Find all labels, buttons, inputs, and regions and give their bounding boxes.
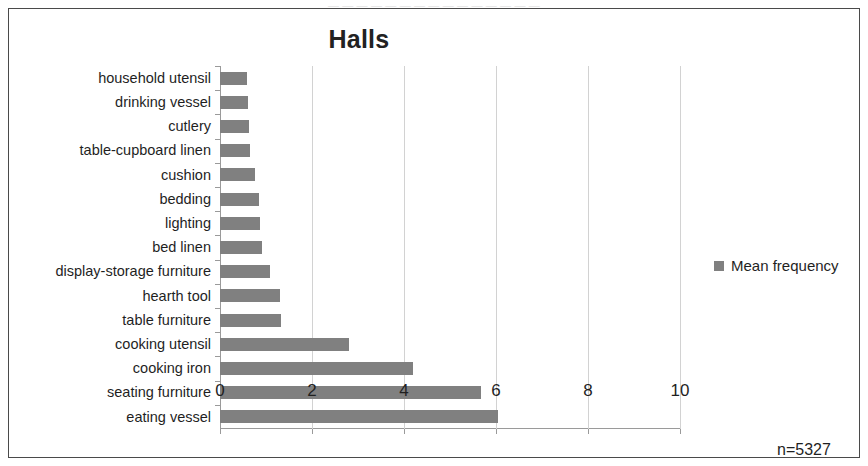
bar <box>220 289 280 302</box>
bar-row: bed linen <box>220 235 262 259</box>
category-label: hearth tool <box>142 289 211 304</box>
y-axis-tick <box>215 405 220 406</box>
bar-row: seating furniture <box>220 381 481 405</box>
bar <box>220 168 255 181</box>
legend-label-mean-frequency: Mean frequency <box>731 257 839 274</box>
chart-title: Halls <box>9 25 709 54</box>
x-axis-tick <box>220 429 221 434</box>
gridline <box>680 66 681 429</box>
y-axis-tick <box>215 90 220 91</box>
x-axis-tick <box>404 429 405 434</box>
y-axis-tick <box>215 114 220 115</box>
category-label: drinking vessel <box>115 95 211 110</box>
y-axis-tick <box>215 139 220 140</box>
bar <box>220 193 259 206</box>
x-axis-tick <box>588 429 589 434</box>
gridline <box>496 66 497 429</box>
x-axis-tick-label: 4 <box>399 381 408 401</box>
bar-row: lighting <box>220 211 260 235</box>
category-label: cooking iron <box>133 361 211 376</box>
category-label: table-cupboard linen <box>80 143 211 158</box>
bar-row: drinking vessel <box>220 90 248 114</box>
category-label: cutlery <box>168 119 211 134</box>
y-axis-tick <box>215 260 220 261</box>
y-axis-tick <box>215 332 220 333</box>
bar-row: eating vessel <box>220 405 498 429</box>
bar <box>220 314 281 327</box>
gridline <box>588 66 589 429</box>
bar-row: table-cupboard linen <box>220 139 250 163</box>
bar-row: cutlery <box>220 114 249 138</box>
bar <box>220 217 260 230</box>
category-label: seating furniture <box>107 385 211 400</box>
plot-area: household utensildrinking vesselcutleryt… <box>220 66 680 429</box>
y-axis-tick <box>215 235 220 236</box>
bar <box>220 410 498 423</box>
bar <box>220 362 413 375</box>
bar-row: table furniture <box>220 308 281 332</box>
bar <box>220 96 248 109</box>
bar-row: cooking iron <box>220 356 413 380</box>
category-label: lighting <box>165 216 211 231</box>
bar <box>220 265 270 278</box>
bar <box>220 120 249 133</box>
chart-container: Halls household utensildrinking vesselcu… <box>8 8 860 458</box>
x-axis-tick-label: 6 <box>491 381 500 401</box>
chart-legend: Mean frequency <box>714 257 839 274</box>
bar-row: display-storage furniture <box>220 260 270 284</box>
bar-row: cooking utensil <box>220 332 349 356</box>
category-label: display-storage furniture <box>55 264 211 279</box>
bar <box>220 386 481 399</box>
bar <box>220 241 262 254</box>
bar-row: bedding <box>220 187 259 211</box>
x-axis-tick-label: 10 <box>671 381 690 401</box>
bar-row: hearth tool <box>220 284 280 308</box>
x-axis-tick-label: 0 <box>215 381 224 401</box>
bar <box>220 338 349 351</box>
legend-swatch-mean-frequency <box>714 261 724 271</box>
bar-row: household utensil <box>220 66 247 90</box>
x-axis-tick <box>680 429 681 434</box>
category-label: cushion <box>161 168 211 183</box>
x-axis-tick <box>496 429 497 434</box>
category-label: bed linen <box>152 240 211 255</box>
x-axis-tick <box>312 429 313 434</box>
y-axis-tick <box>215 66 220 67</box>
bar <box>220 144 250 157</box>
y-axis-tick <box>215 163 220 164</box>
category-label: bedding <box>159 192 211 207</box>
category-label: household utensil <box>98 71 211 86</box>
y-axis-tick <box>215 308 220 309</box>
y-axis-tick <box>215 356 220 357</box>
category-label: table furniture <box>122 313 211 328</box>
y-axis-tick <box>215 284 220 285</box>
y-axis-tick <box>215 211 220 212</box>
category-label: cooking utensil <box>115 337 211 352</box>
x-axis-tick-label: 8 <box>583 381 592 401</box>
x-axis-tick-label: 2 <box>307 381 316 401</box>
category-label: eating vessel <box>126 410 211 425</box>
bar <box>220 72 247 85</box>
y-axis-tick <box>215 187 220 188</box>
bar-row: cushion <box>220 163 255 187</box>
sample-size-annotation: n=5327 <box>777 441 831 459</box>
